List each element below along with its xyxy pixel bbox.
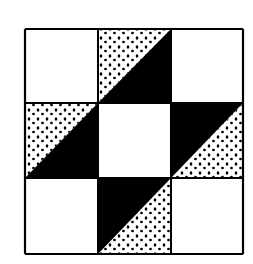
blank-square bbox=[25, 29, 98, 103]
quilt-cell-r2-c2 bbox=[171, 178, 243, 254]
quilt-cell-r0-c2 bbox=[171, 29, 243, 103]
blank-square bbox=[171, 29, 243, 103]
quilt-block bbox=[0, 0, 253, 264]
quilt-cells bbox=[25, 29, 243, 254]
quilt-cell-r2-c0 bbox=[25, 178, 98, 254]
quilt-cell-r0-c1 bbox=[98, 29, 171, 103]
quilt-cell-r0-c0 bbox=[25, 29, 98, 103]
quilt-cell-r1-c1 bbox=[98, 103, 171, 178]
blank-square bbox=[98, 103, 171, 178]
quilt-cell-r1-c2 bbox=[171, 103, 243, 178]
blank-square bbox=[171, 178, 243, 254]
quilt-cell-r1-c0 bbox=[25, 103, 98, 178]
blank-square bbox=[25, 178, 98, 254]
quilt-cell-r2-c1 bbox=[98, 178, 171, 254]
